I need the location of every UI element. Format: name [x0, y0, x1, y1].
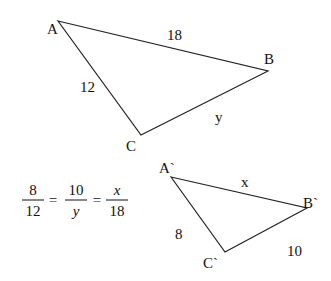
side-label-ac: 12 [80, 79, 95, 95]
fraction-3-denominator: 18 [110, 203, 125, 219]
fraction-3: x 18 [106, 182, 128, 219]
side-label-bc: y [215, 109, 223, 125]
vertex-label-c: C [126, 138, 136, 154]
triangle-abc-outline [58, 21, 268, 135]
side-label-a-prime-c-prime: 8 [175, 226, 183, 242]
fraction-1-denominator: 12 [26, 203, 41, 219]
fraction-3-numerator: x [113, 182, 121, 198]
vertex-label-b: B [264, 51, 274, 67]
vertex-label-a: A [47, 21, 58, 37]
triangle-prime-outline [171, 177, 307, 252]
similar-triangles-diagram: A B C 18 12 y A` B` C` x 8 10 8 12 = 10 … [0, 0, 331, 281]
side-label-a-prime-b-prime: x [241, 174, 249, 190]
fraction-2-denominator: y [71, 203, 80, 219]
side-label-ab: 18 [167, 27, 182, 43]
triangle-abc: A B C 18 12 y [47, 21, 274, 154]
vertex-label-b-prime: B` [303, 195, 318, 211]
fraction-1: 8 12 [22, 182, 44, 219]
fraction-2-numerator: 10 [69, 182, 84, 198]
fraction-2: 10 y [65, 182, 87, 219]
vertex-label-c-prime: C` [203, 255, 218, 271]
equals-sign-1: = [49, 192, 57, 208]
fraction-1-numerator: 8 [29, 182, 37, 198]
side-label-b-prime-c-prime: 10 [287, 243, 302, 259]
triangle-a-prime-b-prime-c-prime: A` B` C` x 8 10 [159, 160, 318, 271]
vertex-label-a-prime: A` [159, 160, 175, 176]
proportion-equation: 8 12 = 10 y = x 18 [22, 182, 128, 219]
equals-sign-2: = [93, 192, 101, 208]
